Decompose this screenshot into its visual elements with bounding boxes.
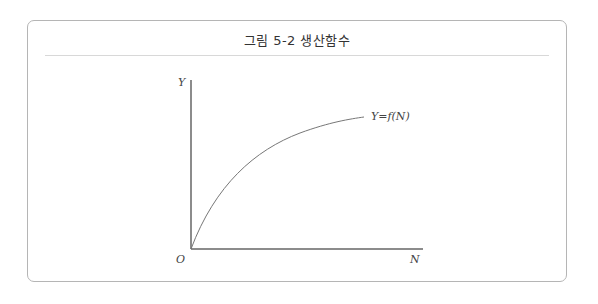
x-axis-label: N — [409, 253, 420, 266]
y-axis-label: Y — [178, 76, 187, 89]
production-curve — [191, 117, 364, 249]
curve-label: Y=f(N) — [371, 110, 410, 123]
origin-label: O — [176, 253, 185, 266]
production-function-chart: Y O N Y=f(N) — [0, 0, 598, 304]
